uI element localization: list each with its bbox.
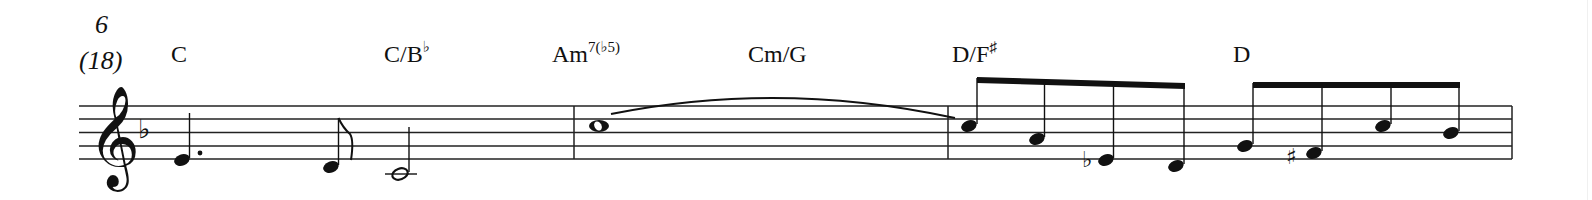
note-e4-dotted-quarter: [173, 113, 203, 168]
music-staff: 𝄞 ♭ ♭ ♯: [0, 0, 1592, 200]
treble-clef-icon: 𝄞: [88, 84, 140, 192]
svg-text:♭: ♭: [138, 114, 150, 144]
note-c5-whole: [589, 120, 609, 132]
staff-lines: [79, 106, 1512, 159]
svg-text:𝄞: 𝄞: [88, 84, 140, 192]
note-c4-half: [385, 127, 417, 182]
beam-group-measure-4: ♯: [1236, 82, 1461, 169]
tie: [611, 98, 955, 118]
key-signature-flat-icon: ♭: [138, 114, 150, 144]
flat-accidental-icon: ♭: [1082, 147, 1092, 172]
page-edge: [1587, 0, 1588, 200]
sharp-accidental-icon: ♯: [1286, 144, 1297, 169]
